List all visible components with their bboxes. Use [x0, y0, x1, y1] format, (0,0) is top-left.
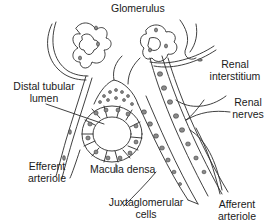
label-distal-tubular-lumen: Distal tubular lumen — [6, 80, 82, 104]
label-glomerulus: Glomerulus — [111, 2, 165, 14]
label-efferent-arteriole-line1: Efferent — [22, 160, 72, 172]
label-distal-tubular-lumen-line1: Distal tubular — [6, 80, 82, 92]
label-renal-nerves-line1: Renal — [228, 96, 268, 108]
label-juxtaglomerular-cells: Juxtaglomerular cells — [106, 196, 186, 220]
label-efferent-arteriole: Efferent arteriole — [22, 160, 72, 184]
label-renal-nerves: Renal nerves — [228, 96, 268, 120]
label-renal-interstitium-line1: Renal — [206, 58, 264, 70]
label-juxtaglomerular-cells-line1: Juxtaglomerular — [106, 196, 186, 208]
label-distal-tubular-lumen-line2: lumen — [6, 92, 82, 104]
label-efferent-arteriole-line2: arteriole — [22, 172, 72, 184]
juxtaglomerular-diagram: Glomerulus Distal tubular lumen Renal in… — [0, 0, 268, 224]
label-afferent-arteriole: Afferent arteriole — [210, 198, 264, 222]
label-macula-densa: Macula densa — [90, 163, 155, 175]
label-renal-interstitium-line2: interstitium — [206, 70, 264, 82]
label-renal-interstitium: Renal interstitium — [206, 58, 264, 82]
label-afferent-arteriole-line2: arteriole — [210, 210, 264, 222]
label-renal-nerves-line2: nerves — [228, 108, 268, 120]
label-juxtaglomerular-cells-line2: cells — [106, 208, 186, 220]
label-afferent-arteriole-line1: Afferent — [210, 198, 264, 210]
